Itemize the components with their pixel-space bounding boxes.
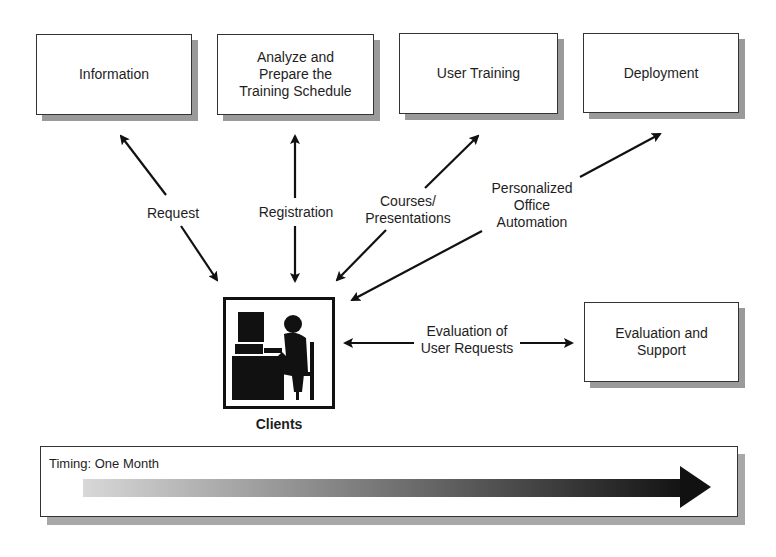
arrow-courses-up: [425, 136, 478, 188]
arrow-automation-up: [580, 134, 660, 177]
edge-label-request: Request: [140, 205, 206, 222]
edge-label-evaluation: Evaluation of User Requests: [414, 323, 520, 357]
edge-label-courses: Courses/ Presentations: [358, 193, 458, 227]
timeline-arrow: [83, 466, 711, 508]
arrow-request-down: [181, 226, 217, 280]
arrow-courses-down: [337, 230, 386, 280]
connector-arrows: [0, 0, 776, 557]
arrow-request-up: [121, 136, 166, 195]
edge-label-registration: Registration: [256, 204, 336, 221]
edge-label-automation: Personalized Office Automation: [482, 180, 582, 231]
arrow-automation-down: [352, 231, 482, 300]
